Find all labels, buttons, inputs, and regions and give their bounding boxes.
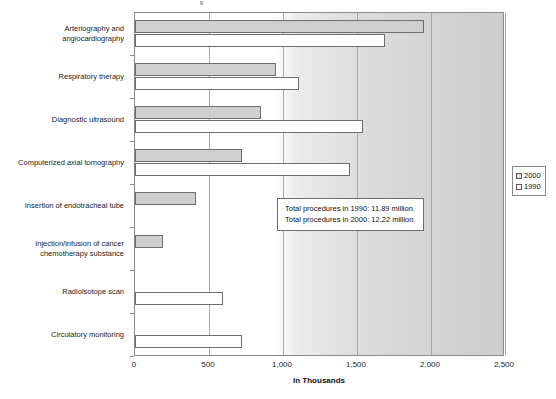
category-label-line: Injection/infusion of cancer [0, 239, 124, 249]
category-label-5: Injection/infusion of cancerchemotherapy… [0, 239, 124, 259]
bar-2000-0 [135, 20, 424, 33]
bar-group [135, 63, 503, 99]
bar-group [135, 20, 503, 56]
legend: 2000 1990 [512, 166, 546, 196]
bar-2000-5 [135, 235, 163, 248]
category-label-2: Diagnostic ultrasound [0, 115, 124, 125]
bar-group [135, 149, 503, 185]
x-axis-tick-labels: 05001,0001,5002,0002,500 [0, 360, 556, 374]
totals-annotation-box: Total procedures in 1990: 11.89 million.… [277, 198, 424, 231]
bar-group [135, 321, 503, 357]
legend-label-1990: 1990 [524, 181, 541, 192]
gridline [505, 13, 506, 355]
bar-1990-1 [135, 77, 299, 90]
category-label-line: Radioisotope scan [0, 287, 124, 297]
x-axis-title: In Thousands [134, 376, 504, 385]
bar-group [135, 106, 503, 142]
bar-2000-4 [135, 192, 196, 205]
bar-2000-2 [135, 106, 261, 119]
category-label-6: Radioisotope scan [0, 287, 124, 297]
category-label-line: Diagnostic ultrasound [0, 115, 124, 125]
category-tickmark [130, 55, 134, 56]
x-tick-label-500: 500 [178, 360, 238, 369]
legend-swatch-2000-icon [516, 173, 522, 179]
category-label-0: Arteriography andangiocardiography [0, 24, 124, 44]
category-tickmark [130, 141, 134, 142]
bar-2000-3 [135, 149, 242, 162]
category-tickmark [130, 227, 134, 228]
category-label-line: Insertion of endotracheal tube [0, 201, 124, 211]
category-label-1: Respiratory therapy [0, 72, 124, 82]
category-label-3: Computerized axial tomography [0, 158, 124, 168]
x-tick-label-1500: 1,500 [326, 360, 386, 369]
bar-1990-0 [135, 34, 385, 47]
annotation-line-2000: Total procedures in 2000: 12.22 million. [285, 214, 416, 225]
category-label-line: Respiratory therapy [0, 72, 124, 82]
category-tickmark [130, 184, 134, 185]
x-tick-label-0: 0 [104, 360, 164, 369]
category-tickmark [130, 98, 134, 99]
legend-label-2000: 2000 [524, 170, 541, 181]
category-tickmark [130, 313, 134, 314]
annotation-line-1990: Total procedures in 1990: 11.89 million. [285, 203, 416, 214]
bar-1990-7 [135, 335, 242, 348]
category-label-line: chemotherapy substance [0, 249, 124, 259]
category-label-line: Arteriography and [0, 24, 124, 34]
legend-swatch-1990-icon [516, 184, 522, 190]
bar-series-container [135, 13, 503, 355]
bar-1990-6 [135, 292, 223, 305]
category-axis-labels: Arteriography andangiocardiographyRespir… [0, 12, 130, 356]
scan-artifact [200, 1, 203, 5]
x-tick-label-1000: 1,000 [252, 360, 312, 369]
bar-group [135, 278, 503, 314]
x-tick-label-2000: 2,000 [400, 360, 460, 369]
bar-group [135, 235, 503, 271]
plot-area [134, 12, 504, 356]
category-label-line: angiocardiography [0, 34, 124, 44]
category-label-4: Insertion of endotracheal tube [0, 201, 124, 211]
category-tickmark [130, 270, 134, 271]
bar-1990-2 [135, 120, 363, 133]
bar-chart: Arteriography andangiocardiographyRespir… [0, 0, 556, 399]
category-label-line: Computerized axial tomography [0, 158, 124, 168]
legend-item-2000: 2000 [516, 170, 541, 181]
legend-item-1990: 1990 [516, 181, 541, 192]
bar-2000-1 [135, 63, 276, 76]
x-tick-label-2500: 2,500 [474, 360, 534, 369]
category-tickmark [130, 356, 134, 357]
category-label-line: Circulatory monitoring [0, 330, 124, 340]
category-label-7: Circulatory monitoring [0, 330, 124, 340]
bar-1990-3 [135, 163, 350, 176]
